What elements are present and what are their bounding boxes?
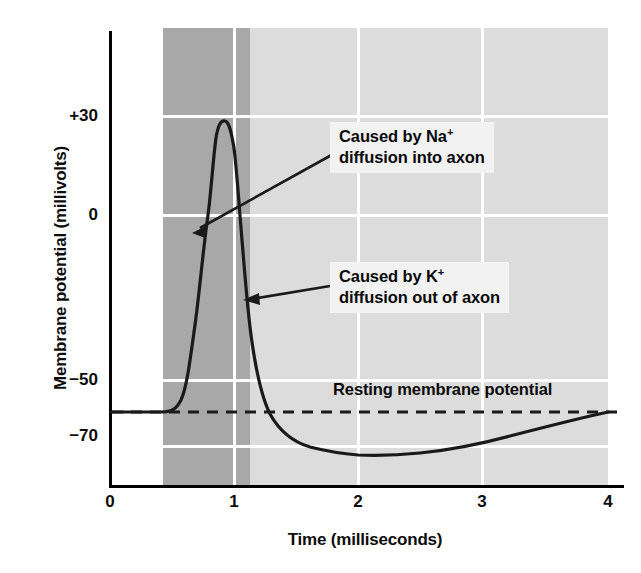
x-tick-label-0: 0: [90, 492, 130, 512]
absolute-refractory-band: [163, 28, 250, 485]
k-callout-text: Caused by K: [339, 267, 438, 285]
na-callout-text: Caused by Na: [339, 127, 447, 145]
na-callout: Caused by Na+ diffusion into axon: [330, 122, 494, 173]
k-callout-line1: Caused by K+: [339, 266, 500, 287]
x-tick-label-2: 2: [338, 492, 378, 512]
resting-potential-label: Resting membrane potential: [333, 380, 552, 399]
x-tick-label-3: 3: [462, 492, 502, 512]
plot-canvas: [0, 0, 641, 573]
y-axis-title: Membrane potential (millivolts): [51, 103, 71, 433]
x-axis-title: Time (milliseconds): [220, 530, 510, 550]
k-callout: Caused by K+ diffusion out of axon: [330, 262, 509, 313]
k-callout-line2: diffusion out of axon: [339, 287, 500, 308]
na-callout-line1: Caused by Na+: [339, 126, 485, 147]
k-plus-superscript: +: [438, 266, 444, 278]
action-potential-figure: +30 0 −50 −70 0 1 2 3 4 Membrane potenti…: [0, 0, 641, 573]
na-callout-line2: diffusion into axon: [339, 147, 485, 168]
x-tick-label-4: 4: [588, 492, 628, 512]
shaded-bands: [163, 28, 608, 485]
na-plus-superscript: +: [447, 126, 453, 138]
x-tick-label-1: 1: [214, 492, 254, 512]
